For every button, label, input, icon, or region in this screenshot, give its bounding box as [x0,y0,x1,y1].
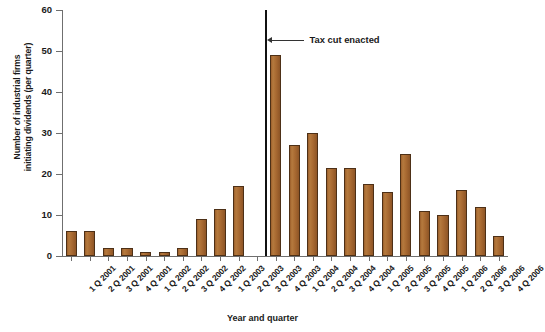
y-axis-title: Number of industrial firms initiating di… [12,22,42,192]
y-axis-tick-label: 40 [41,86,52,97]
x-axis-tick [201,256,202,261]
bar [307,133,318,256]
x-axis-tick [369,256,370,261]
y-axis-tick: 10 [56,215,62,216]
x-axis-tick [424,256,425,261]
bar [214,209,225,256]
y-axis-tick-label: 30 [41,127,52,138]
y-axis-tick: 0 [56,256,62,257]
bar [233,186,244,256]
bar [103,248,114,256]
x-axis-tick [350,256,351,261]
x-axis-tick [127,256,128,261]
bar [419,211,430,256]
tax-cut-arrow-icon [267,37,272,43]
x-axis-tick [108,256,109,261]
x-axis-tick [294,256,295,261]
y-axis-title-line-2: initiating dividends (per quarter) [23,22,34,192]
x-axis-tick [462,256,463,261]
x-axis-tick [499,256,500,261]
y-axis-tick-label: 0 [47,250,52,261]
y-axis-tick: 60 [56,10,62,11]
bar [84,231,95,256]
y-axis-tick: 40 [56,92,62,93]
x-axis-tick [239,256,240,261]
x-axis-tick [331,256,332,261]
x-axis-tick [387,256,388,261]
x-axis-tick [443,256,444,261]
plot-area: 0102030405060 1 Q 20012 Q 20013 Q 20014 … [62,10,508,256]
tax-cut-annotation-label: Tax cut enacted [309,34,379,45]
bar [382,192,393,256]
bar [456,190,467,256]
bar [289,145,300,256]
bar [475,207,486,256]
x-axis-tick [257,256,258,261]
x-axis-tick [90,256,91,261]
bar [493,236,504,257]
bar [66,231,77,256]
x-axis-tick [71,256,72,261]
x-axis-tick [220,256,221,261]
y-axis-tick-label: 20 [41,168,52,179]
bar [177,248,188,256]
x-axis-tick [480,256,481,261]
x-axis-title: Year and quarter [0,313,525,323]
y-axis-title-line-1: Number of industrial firms [12,22,23,192]
bar [326,168,337,256]
bar [400,154,411,257]
x-axis-tick [183,256,184,261]
x-axis-tick [406,256,407,261]
y-axis-line [62,10,63,256]
x-axis-line [62,256,508,257]
y-axis-tick: 50 [56,51,62,52]
bar [270,55,281,256]
x-axis-tick [164,256,165,261]
bar [121,248,132,256]
bar [196,219,207,256]
x-axis-tick [146,256,147,261]
bar [363,184,374,256]
y-axis-tick-label: 10 [41,209,52,220]
bar [437,215,448,256]
y-axis-tick: 20 [56,174,62,175]
y-axis-tick-label: 60 [41,4,52,15]
tax-cut-event-line [265,10,267,256]
x-axis-tick [313,256,314,261]
x-axis-tick [276,256,277,261]
bar [344,168,355,256]
y-axis-tick: 30 [56,133,62,134]
y-axis-tick-label: 50 [41,45,52,56]
tax-cut-leader-line [272,40,304,41]
